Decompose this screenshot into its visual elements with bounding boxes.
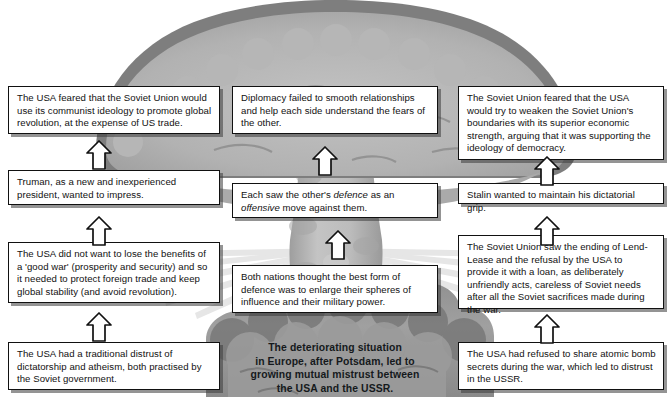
- cold-war-causes-diagram: The USA feared that the Soviet Union wou…: [0, 0, 672, 397]
- note-diplomacy-failed: Diplomacy failed to smooth relationships…: [232, 86, 438, 134]
- emphasis-defence: defence: [333, 189, 368, 200]
- up-arrow-spheres-to-defence: [325, 230, 351, 260]
- up-arrow-good-war-to-truman: [86, 216, 112, 246]
- note-text: The USA did not want to lose the benefit…: [17, 248, 212, 298]
- central-caption: The deteriorating situation in Europe, a…: [232, 341, 438, 395]
- note-text: Each saw the other's defence as an offen…: [241, 189, 430, 214]
- caption-line-2: in Europe, after Potsdam, led to: [232, 355, 438, 369]
- note-spheres-of-influence: Both nations thought the best form of de…: [232, 265, 438, 313]
- emphasis-offensive: offensive: [241, 202, 280, 213]
- up-arrow-distrust-to-good-war: [86, 312, 112, 342]
- note-text: Stalin wanted to maintain his dictatoria…: [467, 189, 656, 214]
- note-usa-benefits-good-war: The USA did not want to lose the benefit…: [8, 242, 220, 303]
- caption-line-1: The deteriorating situation: [232, 341, 438, 355]
- note-text: The USA had a traditional distrust of di…: [17, 348, 212, 386]
- caption-line-3: growing mutual mistrust between: [232, 368, 438, 382]
- up-arrow-defence-to-diplomacy: [312, 146, 338, 176]
- note-stalin-dictatorial-grip: Stalin wanted to maintain his dictatoria…: [458, 183, 664, 204]
- up-arrow-atomic-to-lend-lease: [534, 314, 560, 344]
- note-usa-distrust-dictatorship: The USA had a traditional distrust of di…: [8, 342, 220, 390]
- note-usa-feared-communist-ideology: The USA feared that the Soviet Union wou…: [8, 86, 220, 134]
- up-arrow-truman-to-usa-feared: [86, 140, 112, 170]
- note-text: Truman, as a new and inexperienced presi…: [17, 176, 212, 201]
- note-text: The Soviet Union feared that the USA wou…: [467, 92, 656, 155]
- note-lend-lease-ending: The Soviet Union saw the ending of Lend-…: [458, 235, 664, 309]
- note-atomic-bomb-secrets: The USA had refused to share atomic bomb…: [458, 342, 664, 390]
- up-arrow-stalin-to-soviet-feared: [534, 156, 560, 186]
- note-text: The USA feared that the Soviet Union wou…: [17, 92, 212, 130]
- up-arrow-lend-lease-to-stalin: [534, 216, 560, 246]
- note-truman-inexperienced: Truman, as a new and inexperienced presi…: [8, 170, 220, 205]
- note-text: Diplomacy failed to smooth relationships…: [241, 92, 430, 130]
- note-text: The USA had refused to share atomic bomb…: [467, 348, 656, 386]
- note-text: The Soviet Union saw the ending of Lend-…: [467, 241, 656, 317]
- note-text: Both nations thought the best form of de…: [241, 271, 430, 309]
- note-defence-as-offensive: Each saw the other's defence as an offen…: [232, 183, 438, 218]
- note-soviet-feared-usa-economic-strength: The Soviet Union feared that the USA wou…: [458, 86, 664, 160]
- caption-line-4: the USA and the USSR.: [232, 382, 438, 396]
